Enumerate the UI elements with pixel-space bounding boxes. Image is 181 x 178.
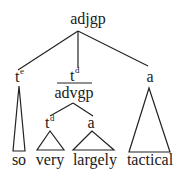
edge-adjgp-te	[18, 31, 78, 70]
triangle-so	[13, 86, 25, 151]
triangle-largely	[73, 131, 114, 150]
word-very: very	[36, 151, 64, 169]
edge-adjgp-a	[78, 31, 148, 66]
word-largely: largely	[73, 151, 117, 169]
node-td-superscript: d	[75, 65, 80, 75]
triangle-tactical	[129, 88, 170, 152]
node-advgp: advgp	[54, 84, 93, 102]
syntax-tree-diagram: adjgp t e so t d advgp t d very a largel…	[0, 0, 181, 178]
node-a-right: a	[146, 68, 153, 85]
node-te-superscript: e	[20, 66, 24, 76]
node-td-inner: t d	[45, 113, 55, 131]
triangle-very	[37, 131, 64, 150]
root-edges	[18, 31, 148, 70]
node-te: t e	[15, 66, 24, 85]
word-tactical: tactical	[127, 151, 174, 168]
node-adjgp: adjgp	[70, 10, 106, 28]
node-a-inner: a	[87, 114, 94, 131]
word-so: so	[12, 151, 26, 168]
node-td-inner-superscript: d	[50, 113, 55, 123]
node-td: t d	[70, 65, 80, 84]
